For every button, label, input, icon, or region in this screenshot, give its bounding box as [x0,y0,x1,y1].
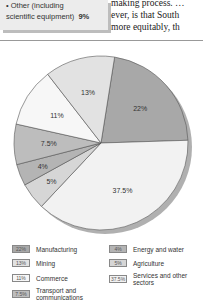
divider [0,40,203,41]
pie-chart: 22%37.5%5%4%7.5%11%13% [0,44,203,244]
legend-swatch: 7.5% [12,290,30,298]
legend-label: Commerce [36,275,68,282]
legend-label: Mining [36,260,55,267]
legend-swatch: 4% [109,245,127,253]
body-text-line: more equitably, th [111,21,185,33]
pie-slice-label: 5% [46,178,56,185]
legend-label: Manufacturing [36,246,77,253]
sidebox-line-2-text: scientific equipment) [6,12,74,21]
legend-label: Services and other sectors [133,272,193,286]
legend-swatch: 11% [12,274,30,282]
legend-item-transport: 7.5% Transport and communications [12,287,92,301]
pie-slice [101,57,188,143]
sidebar-box: • Other (including scientific equipment)… [0,0,108,30]
pie-slice-label: 7.5% [41,140,57,147]
body-text-line: ever, is that South [111,9,185,21]
legend-swatch: 13% [12,259,30,267]
legend-swatch: 22% [12,245,30,253]
legend-item-energy: 4% Energy and water [109,245,184,253]
legend-item-agriculture: 5% Agriculture [109,259,164,267]
legend-label: Transport and communications [36,287,86,301]
pie-slice-label: 4% [38,163,48,170]
legend-item-manufacturing: 22% Manufacturing [12,245,77,253]
pie-slice-label: 13% [81,89,95,96]
legend-label: Energy and water [133,246,184,253]
pie-slice-label: 37.5% [113,187,133,194]
body-text-line: making process. … [111,0,185,9]
legend-item-commerce: 11% Commerce [12,274,68,282]
pie-slice-label: 11% [50,112,64,119]
sidebox-line-2: scientific equipment)9% [6,12,89,21]
legend-item-services: 37.5% Services and other sectors [109,272,203,286]
legend-label: Agriculture [133,260,164,267]
legend-item-mining: 13% Mining [12,259,55,267]
body-text: making process. … ever, is that South mo… [111,0,185,33]
legend-swatch: 37.5% [109,275,127,283]
sidebox-line-1: • Other (including [6,1,64,10]
pie-slice-label: 22% [133,105,147,112]
sidebox-line-2-pct: 9% [78,12,89,21]
legend-swatch: 5% [109,259,127,267]
